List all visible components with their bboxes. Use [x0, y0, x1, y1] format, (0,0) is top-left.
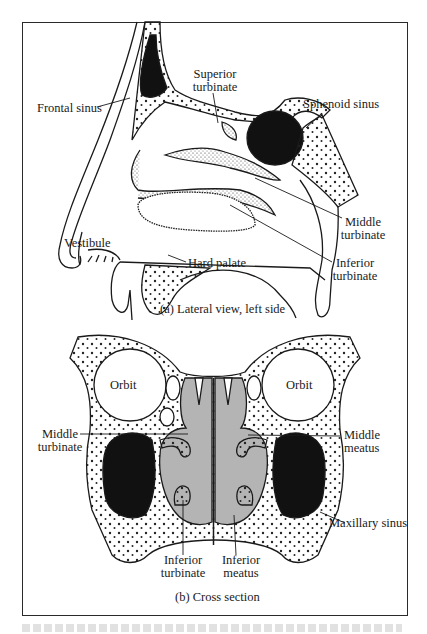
maxillary-sinus-right — [273, 433, 325, 518]
label-superior-turbinate-line2: turbinate — [180, 81, 250, 94]
maxillary-sinus-left — [103, 433, 155, 518]
nose-inner-outline — [70, 22, 145, 258]
label-inferior-meatus-line2: meatus — [216, 567, 266, 580]
inferior-turbinate-left — [174, 486, 190, 505]
leader-hard-palate — [168, 255, 186, 262]
ethmoid-cell-left-2 — [160, 408, 174, 426]
label-inferior-turbinate-line2: turbinate — [328, 270, 382, 283]
label-frontal-sinus: Frontal sinus — [37, 102, 102, 115]
label-middle-meatus-line2: meatus — [344, 442, 379, 455]
label-sphenoid-sinus: Sphenoid sinus — [303, 98, 379, 111]
label-maxillary-sinus: Maxillary sinus — [329, 517, 407, 530]
ethmoid-cell-left-1 — [166, 376, 180, 400]
upper-lip — [111, 262, 132, 320]
caption-cross-section: (b) Cross section — [175, 590, 260, 605]
label-middle-turbinate-b-line2: turbinate — [36, 441, 84, 454]
superior-turbinate-shape — [222, 122, 236, 140]
caption-lateral-view: (a) Lateral view, left side — [160, 302, 285, 317]
anatomy-illustration — [0, 0, 427, 634]
vestibule-hairs — [88, 255, 113, 262]
label-inferior-turbinate-b-line2: turbinate — [156, 567, 210, 580]
label-orbit-right: Orbit — [286, 379, 312, 392]
cross-section — [70, 335, 360, 562]
label-hard-palate: Hard palate — [188, 257, 246, 270]
ethmoid-cell-right-1 — [247, 376, 261, 400]
label-middle-turbinate-line2: turbinate — [336, 229, 390, 242]
label-vestibule: Vestibule — [64, 237, 111, 250]
truncated-figure-caption — [22, 624, 402, 632]
label-orbit-left: Orbit — [110, 379, 136, 392]
inferior-turbinate-right — [237, 486, 253, 505]
nose-outer-outline — [59, 22, 137, 268]
